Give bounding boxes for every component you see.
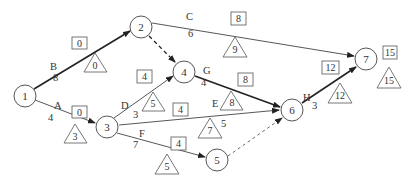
ls-tri-F: 5: [155, 154, 179, 174]
svg-text:4: 4: [176, 138, 181, 149]
svg-text:4: 4: [181, 66, 187, 78]
es-box-G: 8: [238, 73, 253, 86]
ls-tri-A: 3: [64, 124, 87, 143]
node-1: 1: [14, 85, 36, 107]
svg-text:3: 3: [73, 131, 78, 142]
ls-tri-C: 9: [223, 37, 247, 57]
svg-text:2: 2: [138, 21, 144, 33]
arrow-F: [117, 133, 205, 157]
duration-F: 7: [133, 139, 138, 150]
svg-text:7: 7: [363, 53, 369, 65]
es-box-B: 0: [72, 37, 87, 49]
ls-tri-H: 12: [328, 83, 352, 103]
es-boxes: 0 0 8 4 8 4 4 12 15: [72, 12, 397, 150]
svg-text:7: 7: [208, 125, 213, 136]
svg-text:15: 15: [385, 47, 395, 58]
svg-text:4: 4: [142, 71, 147, 82]
ls-triangles: 0 3 9 5 8 7 5 12 15: [64, 37, 401, 174]
duration-B: 8: [53, 72, 58, 83]
svg-text:0: 0: [77, 107, 82, 118]
label-B: B: [50, 61, 57, 72]
svg-text:3: 3: [104, 121, 110, 133]
svg-text:12: 12: [335, 90, 345, 101]
finish-triangle: 15: [377, 67, 401, 88]
svg-text:12: 12: [326, 62, 336, 73]
node-4: 4: [173, 61, 195, 83]
es-box-C: 8: [231, 12, 246, 25]
nodes: 1 2 3 4 5 6 7: [14, 16, 377, 171]
svg-text:8: 8: [230, 97, 235, 108]
es-box-E: 4: [173, 103, 188, 116]
svg-text:15: 15: [384, 75, 394, 86]
ls-tri-E: 7: [198, 118, 222, 138]
label-C: C: [186, 11, 193, 22]
ls-tri-G: 8: [220, 91, 243, 110]
label-G: G: [203, 65, 211, 76]
duration-D: 3: [133, 109, 138, 120]
node-5: 5: [206, 149, 228, 171]
finish-box: 15: [383, 46, 397, 59]
dummy-5-6: [228, 118, 282, 156]
dummy-2-4: [149, 36, 175, 62]
es-box-F: 4: [171, 137, 186, 150]
svg-text:5: 5: [151, 98, 156, 109]
svg-text:0: 0: [93, 60, 98, 71]
node-6: 6: [281, 99, 303, 121]
svg-text:6: 6: [289, 104, 295, 116]
svg-text:9: 9: [233, 44, 238, 55]
ls-tri-D: 5: [142, 92, 165, 111]
svg-text:5: 5: [165, 161, 170, 172]
network-diagram: 1 2 3 4 5 6 7 B 8 A 4 C 6 D 3 G 4 E 5 F …: [0, 0, 410, 186]
svg-text:4: 4: [178, 104, 183, 115]
arrow-E: [119, 110, 279, 125]
node-2: 2: [130, 16, 152, 38]
duration-G: 4: [201, 77, 207, 88]
duration-H: 3: [312, 100, 317, 111]
svg-text:8: 8: [236, 13, 241, 24]
node-7: 7: [355, 48, 377, 70]
svg-text:5: 5: [214, 154, 220, 166]
label-E: E: [212, 98, 218, 109]
svg-text:0: 0: [77, 38, 82, 49]
svg-text:8: 8: [243, 74, 248, 85]
label-D: D: [121, 100, 129, 111]
duration-C: 6: [188, 28, 193, 39]
es-box-A: 0: [72, 106, 87, 118]
arrow-C: [152, 23, 354, 56]
es-box-H: 12: [322, 61, 339, 74]
label-F: F: [139, 128, 145, 139]
es-box-D: 4: [137, 70, 152, 83]
node-3: 3: [96, 116, 118, 138]
duration-E: 5: [221, 118, 226, 129]
label-A: A: [54, 100, 62, 111]
label-H: H: [303, 92, 311, 103]
svg-text:1: 1: [22, 90, 28, 102]
duration-A: 4: [48, 112, 54, 123]
